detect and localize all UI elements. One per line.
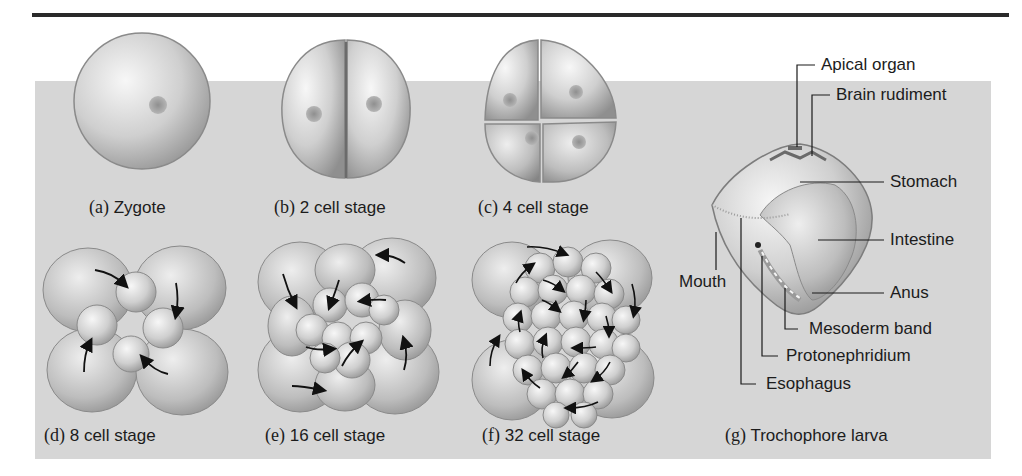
label-mouth: Mouth: [679, 272, 726, 292]
label-stomach: Stomach: [890, 172, 957, 192]
sixteen-cell-embryo: [258, 238, 439, 414]
label-apical-organ: Apical organ: [821, 55, 916, 75]
eight-cell-embryo: [43, 246, 228, 415]
four-cell-embryo: [485, 40, 616, 182]
caption-32-cell-stage: (f) 32 cell stage: [482, 425, 600, 446]
caption-8-cell-stage: (d) 8 cell stage: [44, 425, 156, 446]
label-intestine: Intestine: [890, 230, 954, 250]
caption-trochophore-larva: (g) Trochophore larva: [725, 425, 888, 446]
label-mesoderm-band: Mesoderm band: [809, 319, 932, 339]
caption-16-cell-stage: (e) 16 cell stage: [265, 425, 385, 446]
thirty-two-cell-embryo: [472, 240, 654, 428]
caption-4-cell-stage: (c) 4 cell stage: [478, 197, 589, 218]
label-protonephridium: Protonephridium: [786, 346, 911, 366]
label-esophagus: Esophagus: [766, 374, 851, 394]
caption-zygote: (a) Zygote: [89, 197, 166, 218]
label-brain-rudiment: Brain rudiment: [836, 85, 947, 105]
caption-2-cell-stage: (b) 2 cell stage: [274, 197, 386, 218]
two-cell-embryo: [282, 40, 410, 178]
label-anus: Anus: [890, 283, 929, 303]
zygote-cell: [74, 33, 210, 169]
trochophore-larva: [712, 144, 872, 314]
